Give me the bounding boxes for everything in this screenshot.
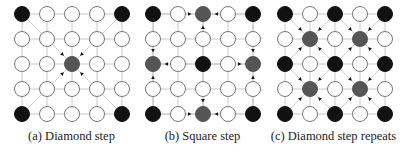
- node-black: [278, 7, 293, 22]
- node-white: [40, 57, 55, 72]
- node-white: [221, 57, 236, 72]
- node-white: [115, 32, 130, 47]
- node-white: [303, 7, 318, 22]
- node-white: [353, 107, 368, 122]
- node-white: [353, 57, 368, 72]
- node-gray: [196, 7, 211, 22]
- node-white: [171, 7, 186, 22]
- arrowhead-icon: [188, 112, 192, 116]
- panel-square-step: [146, 7, 261, 122]
- node-white: [90, 32, 105, 47]
- node-white: [328, 32, 343, 47]
- node-white: [65, 7, 80, 22]
- node-white: [278, 82, 293, 97]
- arrowhead-icon: [151, 49, 155, 53]
- node-white: [40, 107, 55, 122]
- node-black: [378, 57, 393, 72]
- node-white: [221, 32, 236, 47]
- node-white: [171, 32, 186, 47]
- node-white: [221, 107, 236, 122]
- node-white: [378, 32, 393, 47]
- node-black: [146, 107, 161, 122]
- node-white: [65, 32, 80, 47]
- node-black: [15, 107, 30, 122]
- node-black: [146, 7, 161, 22]
- arrowhead-icon: [165, 62, 169, 66]
- node-white: [303, 107, 318, 122]
- arrowhead-icon: [188, 12, 192, 16]
- node-black: [246, 107, 261, 122]
- node-black: [278, 107, 293, 122]
- node-white: [90, 107, 105, 122]
- arrowhead-icon: [251, 49, 255, 53]
- arrowhead-icon: [215, 112, 219, 116]
- node-white: [171, 57, 186, 72]
- node-gray: [196, 107, 211, 122]
- node-black: [15, 7, 30, 22]
- node-gray: [65, 57, 80, 72]
- node-black: [378, 7, 393, 22]
- node-white: [115, 82, 130, 97]
- caption-square-step: (b) Square step: [135, 129, 270, 144]
- node-white: [353, 7, 368, 22]
- node-white: [221, 82, 236, 97]
- node-white: [15, 32, 30, 47]
- node-white: [15, 57, 30, 72]
- node-white: [328, 82, 343, 97]
- arrowhead-icon: [251, 76, 255, 80]
- node-gray: [353, 82, 368, 97]
- node-black: [196, 57, 211, 72]
- node-white: [40, 82, 55, 97]
- arrowhead-icon: [201, 26, 205, 30]
- node-white: [15, 82, 30, 97]
- node-white: [171, 82, 186, 97]
- node-white: [378, 82, 393, 97]
- panel-diamond-step-repeats: [278, 7, 393, 122]
- arrowhead-icon: [238, 62, 242, 66]
- node-white: [246, 82, 261, 97]
- node-white: [65, 107, 80, 122]
- node-gray: [303, 32, 318, 47]
- arrowhead-icon: [151, 76, 155, 80]
- node-black: [115, 107, 130, 122]
- node-black: [278, 57, 293, 72]
- node-white: [146, 32, 161, 47]
- node-white: [90, 57, 105, 72]
- node-white: [303, 57, 318, 72]
- node-gray: [246, 57, 261, 72]
- node-black: [115, 7, 130, 22]
- node-black: [246, 7, 261, 22]
- node-white: [246, 32, 261, 47]
- node-white: [115, 57, 130, 72]
- node-white: [146, 82, 161, 97]
- node-white: [171, 107, 186, 122]
- arrowhead-icon: [215, 12, 219, 16]
- caption-diamond-step-repeats: (c) Diamond step repeats: [266, 129, 401, 144]
- node-white: [196, 82, 211, 97]
- arrowhead-icon: [201, 99, 205, 103]
- node-black: [378, 107, 393, 122]
- node-white: [278, 32, 293, 47]
- node-gray: [353, 32, 368, 47]
- node-black: [328, 7, 343, 22]
- node-gray: [303, 82, 318, 97]
- node-white: [90, 82, 105, 97]
- panel-diamond-step: [15, 7, 130, 122]
- node-white: [221, 7, 236, 22]
- node-white: [90, 7, 105, 22]
- node-white: [40, 32, 55, 47]
- node-white: [65, 82, 80, 97]
- node-black: [328, 57, 343, 72]
- caption-diamond-step: (a) Diamond step: [4, 129, 139, 144]
- node-white: [196, 32, 211, 47]
- node-white: [40, 7, 55, 22]
- node-gray: [146, 57, 161, 72]
- node-black: [328, 107, 343, 122]
